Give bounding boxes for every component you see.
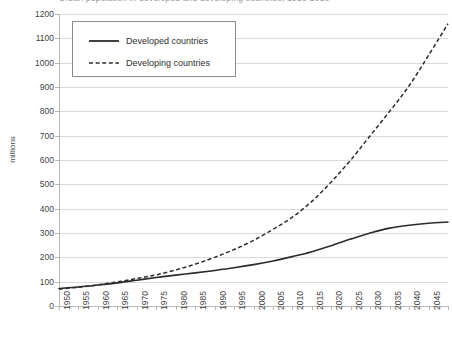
legend-swatch-dashed-icon: [89, 58, 119, 68]
x-axis-label-1975: 1975: [160, 291, 169, 310]
x-axis-label-2000: 2000: [258, 291, 267, 310]
chart-legend: Developed countries Developing countries: [72, 21, 236, 77]
x-axis-label-2015: 2015: [316, 291, 325, 310]
legend-item-developing: Developing countries: [73, 56, 235, 70]
x-axis-label-1985: 1985: [199, 291, 208, 310]
x-axis-label-1995: 1995: [238, 291, 247, 310]
chart-container: Urban population in developed and develo…: [0, 0, 452, 346]
legend-item-developed: Developed countries: [73, 34, 235, 48]
x-axis-label-2010: 2010: [296, 291, 305, 310]
x-axis-label-2045: 2045: [433, 291, 442, 310]
legend-swatch-solid-icon: [89, 36, 119, 46]
legend-label-developed: Developed countries: [126, 36, 208, 46]
x-axis-label-1980: 1980: [180, 291, 189, 310]
x-axis-label-1960: 1960: [102, 291, 111, 310]
x-axis-label-2025: 2025: [355, 291, 364, 310]
x-axis-label-1955: 1955: [82, 291, 91, 310]
x-axis-label-2040: 2040: [413, 291, 422, 310]
x-axis-label-1990: 1990: [219, 291, 228, 310]
x-axis-label-1950: 1950: [63, 291, 72, 310]
x-axis-label-1965: 1965: [121, 291, 130, 310]
x-axis-label-2005: 2005: [277, 291, 286, 310]
x-axis-label-2035: 2035: [394, 291, 403, 310]
x-axis-label-2030: 2030: [374, 291, 383, 310]
x-axis-label-2020: 2020: [335, 291, 344, 310]
legend-label-developing: Developing countries: [126, 58, 210, 68]
x-axis-label-1970: 1970: [141, 291, 150, 310]
